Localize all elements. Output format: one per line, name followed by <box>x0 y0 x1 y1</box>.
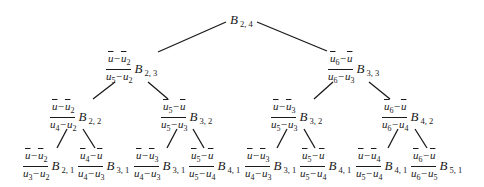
minus-sign: − <box>312 149 319 161</box>
fraction-denominator: u4−u3 <box>133 167 161 183</box>
coefficient-fraction: u6−uu6−u4 <box>381 101 409 134</box>
fraction-denominator: u5−u3 <box>160 118 188 134</box>
basis-function-index: 3, 1 <box>116 165 129 175</box>
minus-sign: − <box>199 167 206 179</box>
fraction-numerator: u5−u <box>190 150 214 167</box>
fraction-numerator: u−u4 <box>357 150 381 167</box>
minus-sign: − <box>364 149 371 161</box>
fraction-numerator: u6−u <box>412 150 436 167</box>
fraction-denominator: u6−u3 <box>327 70 355 86</box>
fraction-denominator: u6−u5 <box>410 167 438 183</box>
basis-function-label: B2, 4 <box>230 12 253 29</box>
fraction-denominator: u5−u4 <box>299 167 327 183</box>
minus-sign: − <box>255 167 262 179</box>
knot-symbol: u <box>430 149 436 161</box>
fraction-denominator: u5−u4 <box>188 167 216 183</box>
fraction-denominator: u4−u3 <box>244 167 272 183</box>
basis-function-index: 2, 2 <box>88 116 101 126</box>
knot-index: 4 <box>378 173 382 182</box>
tree-node-l3_2: u−u3u4−u3B3, 1 <box>133 150 185 183</box>
basis-function-label: B3, 1 <box>273 158 296 175</box>
basis-function-index: 3, 3 <box>366 68 379 78</box>
coefficient-fraction: u−u3u5−u3 <box>270 101 298 134</box>
basis-function-label: B4, 2 <box>410 109 433 126</box>
coefficient-fraction: u−u3u4−u3 <box>133 150 161 183</box>
tree-node-l3_7: u6−uu6−u5B5, 1 <box>410 150 462 183</box>
fraction-numerator: u−u3 <box>135 150 159 167</box>
basis-function-label: B2, 2 <box>78 109 101 126</box>
knot-index: 4 <box>322 173 326 182</box>
basis-function-index: 5, 1 <box>449 165 462 175</box>
fraction-numerator: u5−u <box>301 150 325 167</box>
knot-index: 3 <box>291 106 295 115</box>
coefficient-fraction: u−u2u5−u2 <box>105 53 133 86</box>
basis-function-index: 2, 4 <box>240 19 253 29</box>
basis-function-index: 3, 2 <box>309 116 322 126</box>
knot-index: 3 <box>267 173 271 182</box>
minus-sign: − <box>33 167 40 179</box>
basis-function-index: 2, 1 <box>61 165 74 175</box>
minus-sign: − <box>144 167 151 179</box>
fraction-denominator: u5−u4 <box>355 167 383 183</box>
knot-index: 3 <box>183 124 187 133</box>
minus-sign: − <box>31 149 38 161</box>
tree-node-l3_4: u−u3u4−u3B3, 1 <box>244 150 296 183</box>
basis-function-label: B3, 2 <box>189 109 212 126</box>
fraction-numerator: u−u3 <box>272 101 296 118</box>
knot-index: 2 <box>43 155 47 164</box>
tree-node-l2_0: u−u2u4−u2B2, 2 <box>49 101 101 134</box>
fraction-denominator: u4−u2 <box>49 118 77 134</box>
fraction-numerator: u−u2 <box>107 53 131 70</box>
knot-index: 2 <box>128 76 132 85</box>
tree-node-root: B2, 4 <box>230 12 253 29</box>
tree-node-l2_1: u5−uu5−u3B3, 2 <box>160 101 212 134</box>
fraction-denominator: u4−u3 <box>77 167 105 183</box>
knot-index: 3 <box>293 124 297 133</box>
minus-sign: − <box>310 167 317 179</box>
basis-function-label: B3, 1 <box>162 158 185 175</box>
minus-sign: − <box>201 149 208 161</box>
coefficient-fraction: u5−uu5−u4 <box>299 150 327 183</box>
tree-node-l2_2: u−u3u5−u3B3, 2 <box>270 101 322 134</box>
coefficient-fraction: u6−uu6−u3 <box>327 53 355 86</box>
coefficient-fraction: u4−uu4−u3 <box>77 150 105 183</box>
basis-function-label: B2, 1 <box>51 158 74 175</box>
minus-sign: − <box>142 149 149 161</box>
basis-function-label: B4, 1 <box>384 158 407 175</box>
basis-function-index: 4, 1 <box>338 165 351 175</box>
tree-node-l2_3: u6−uu6−u4B4, 2 <box>381 101 433 134</box>
knot-index: 3 <box>154 155 158 164</box>
basis-function-index: 3, 1 <box>172 165 185 175</box>
basis-function-index: 4, 1 <box>227 165 240 175</box>
basis-function-index: 4, 2 <box>420 116 433 126</box>
knot-index: 3 <box>265 155 269 164</box>
knot-index: 2 <box>45 173 49 182</box>
basis-function-label: B2, 3 <box>134 61 157 78</box>
knot-index: 4 <box>211 173 215 182</box>
basis-function-label: B3, 1 <box>106 158 129 175</box>
minus-sign: − <box>114 52 121 64</box>
basis-function-label: B3, 2 <box>299 109 322 126</box>
minus-sign: − <box>171 118 178 130</box>
knot-index: 2 <box>70 106 74 115</box>
basis-function-label: B5, 1 <box>439 158 462 175</box>
knot-symbol: u <box>347 52 353 64</box>
coefficient-fraction: u6−uu6−u5 <box>410 150 438 183</box>
fraction-numerator: u−u2 <box>24 150 48 167</box>
tree-node-l3_3: u5−uu5−u4B4, 1 <box>188 150 240 183</box>
tree-node-l3_6: u−u4u5−u4B4, 1 <box>355 150 407 183</box>
fraction-numerator: u5−u <box>162 101 186 118</box>
fraction-numerator: u−u2 <box>51 101 75 118</box>
tree-node-l3_1: u4−uu4−u3B3, 1 <box>77 150 129 183</box>
minus-sign: − <box>279 100 286 112</box>
knot-index: 3 <box>350 76 354 85</box>
tree-node-l1_right: u6−uu6−u3B3, 3 <box>327 53 379 86</box>
coefficient-fraction: u5−uu5−u4 <box>188 150 216 183</box>
basis-function-index: 3, 1 <box>283 165 296 175</box>
minus-sign: − <box>173 100 180 112</box>
minus-sign: − <box>60 118 67 130</box>
fraction-numerator: u6−u <box>383 101 407 118</box>
fraction-numerator: u4−u <box>79 150 103 167</box>
coefficient-fraction: u−u3u4−u3 <box>244 150 272 183</box>
coefficient-fraction: u5−uu5−u3 <box>160 101 188 134</box>
